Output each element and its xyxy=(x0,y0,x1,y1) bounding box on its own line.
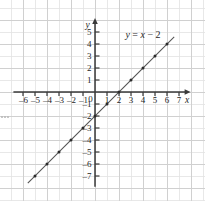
line-series xyxy=(28,37,174,183)
svg-text:3: 3 xyxy=(129,95,134,105)
svg-text:–5: –5 xyxy=(82,147,93,157)
svg-text:6: 6 xyxy=(165,95,170,105)
svg-text:–1: –1 xyxy=(82,99,92,109)
svg-text:y: y xyxy=(84,20,90,30)
svg-text:1: 1 xyxy=(87,75,92,85)
page-edge-artifact xyxy=(1,116,11,119)
svg-text:–6: –6 xyxy=(82,159,93,169)
svg-text:–6: –6 xyxy=(18,95,29,105)
svg-text:3: 3 xyxy=(87,51,92,61)
svg-text:–5: –5 xyxy=(30,95,41,105)
svg-text:–3: –3 xyxy=(54,95,65,105)
svg-text:2: 2 xyxy=(87,63,92,73)
svg-text:1: 1 xyxy=(105,95,110,105)
svg-text:4: 4 xyxy=(141,95,146,105)
svg-text:7: 7 xyxy=(177,95,182,105)
svg-text:–7: –7 xyxy=(82,171,93,181)
cartesian-plot: –6–5–4–3–2–101234567–7–6–5–4–3–2–112345 … xyxy=(0,0,205,201)
svg-text:–2: –2 xyxy=(66,95,76,105)
svg-text:x: x xyxy=(184,95,190,105)
svg-text:2: 2 xyxy=(117,95,122,105)
svg-text:5: 5 xyxy=(153,95,158,105)
svg-text:y = x − 2: y = x − 2 xyxy=(124,29,160,40)
svg-text:–4: –4 xyxy=(42,95,53,105)
svg-text:–3: –3 xyxy=(82,123,93,133)
svg-text:4: 4 xyxy=(87,39,92,49)
svg-text:–4: –4 xyxy=(82,135,93,145)
svg-text:–2: –2 xyxy=(82,111,92,121)
coordinate-graph-figure: –6–5–4–3–2–101234567–7–6–5–4–3–2–112345 … xyxy=(0,0,205,201)
